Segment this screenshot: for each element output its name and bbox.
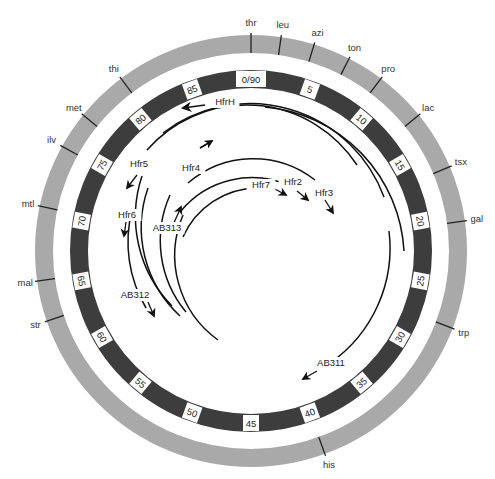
gene-label-gal: gal: [470, 213, 483, 224]
gene-label-mtl: mtl: [22, 198, 35, 209]
unit-label: 45: [246, 418, 257, 429]
strain-label-hfr5: Hfr5: [130, 158, 148, 169]
arc-hfrh-arrow: [183, 105, 205, 108]
arrow-hfr5: [127, 175, 137, 188]
arrow-ab312: [148, 302, 154, 316]
gene-label-thr: thr: [245, 17, 256, 28]
gene-label-his: his: [323, 459, 335, 470]
arrow-hfr6: [124, 222, 126, 236]
gene-label-ilv: ilv: [47, 134, 56, 145]
arc-3: [147, 105, 357, 165]
unit-marker-25: 25: [411, 272, 430, 291]
unit-label: 0/90: [242, 74, 261, 85]
gene-label-met: met: [66, 102, 82, 113]
unit-marker-45: 45: [243, 415, 259, 431]
arrow-hfr2: [297, 191, 308, 200]
gene-label-leu: leu: [276, 19, 289, 30]
unit-label: 70: [75, 215, 88, 227]
unit-marker-20: 20: [411, 212, 430, 231]
strain-label-ab311: AB311: [317, 357, 345, 368]
gene-ring: [44, 44, 458, 458]
unit-marker-70: 70: [72, 212, 91, 231]
genetic-map: thrleuazitonprolactsxgaltrphisstrmalmtli…: [0, 0, 495, 479]
strain-label-hfr2: Hfr2: [284, 176, 302, 187]
unit-label: 25: [414, 275, 427, 287]
unit-marker-65: 65: [72, 272, 91, 291]
gene-label-mal: mal: [18, 277, 33, 288]
unit-ring: [79, 79, 423, 423]
gene-label-ton: ton: [348, 42, 361, 53]
arrow-hfr4: [200, 141, 212, 148]
strain-label-hfrh: HfrH: [215, 96, 235, 107]
strain-label-ab312: AB312: [121, 289, 150, 300]
unit-label: 65: [75, 275, 88, 287]
strain-label-ab313: AB313: [153, 222, 182, 233]
gene-label-trp: trp: [458, 327, 469, 338]
strain-label-hfr3: Hfr3: [315, 187, 333, 198]
arc-hfr5: [135, 176, 172, 306]
gene-label-pro: pro: [381, 63, 395, 74]
gene-label-thi: thi: [109, 63, 119, 74]
gene-label-tsx: tsx: [455, 156, 467, 167]
strain-label-hfr4: Hfr4: [182, 162, 200, 173]
unit-label: 20: [414, 215, 427, 227]
arrow-ab311: [303, 371, 317, 379]
arc-hfr7: [183, 188, 257, 237]
strain-label-hfr7: Hfr7: [252, 179, 270, 190]
arc-ab311: [330, 231, 390, 363]
arrow-hfr3: [325, 200, 333, 213]
strain-label-hfr6: Hfr6: [118, 209, 136, 220]
gene-label-azi: azi: [312, 27, 324, 38]
strain-labels: HfrHHfr5Hfr4Hfr6AB313Hfr7Hfr2Hfr3AB312AB…: [113, 96, 349, 369]
gene-label-str: str: [30, 319, 41, 330]
gene-label-lac: lac: [422, 102, 434, 113]
unit-marker-0-90: 0/90: [236, 71, 266, 87]
